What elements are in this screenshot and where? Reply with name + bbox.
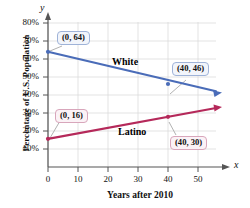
y-tick-label-80: 80% [9,17,39,27]
x-tick-label-0: 0 [37,174,59,184]
x-tick-label-40: 40 [157,174,179,184]
series-label-white: White [112,56,138,67]
y-tick-label-60: 60% [9,53,39,63]
y-axis-letter: y [40,2,44,13]
callout-latino-end: (40, 30) [170,136,207,150]
y-axis-ticks [43,23,48,149]
callout-latino-start: (0, 16) [55,109,88,123]
series-label-latino: Latino [118,126,146,137]
x-axis-ticks [48,167,198,172]
x-axis-title: Years after 2010 [50,190,230,200]
x-axis-letter: x [234,159,238,170]
x-tick-label-50: 50 [187,174,209,184]
y-axis [45,12,51,167]
callout-white-start: (0, 64) [57,31,90,45]
chart-figure: Percentage of U.S. Population Years afte… [0,0,250,208]
x-tick-label-20: 20 [97,174,119,184]
y-tick-label-70: 70% [9,35,39,45]
y-tick-label-40: 40% [9,89,39,99]
callout-white-end: (40, 46) [172,62,209,76]
x-tick-label-10: 10 [67,174,89,184]
x-tick-label-30: 30 [127,174,149,184]
x-axis [48,164,230,170]
y-tick-label-10: 10% [9,143,39,153]
y-tick-label-30: 30% [9,107,39,117]
y-tick-label-50: 50% [9,71,39,81]
y-tick-label-20: 20% [9,125,39,135]
